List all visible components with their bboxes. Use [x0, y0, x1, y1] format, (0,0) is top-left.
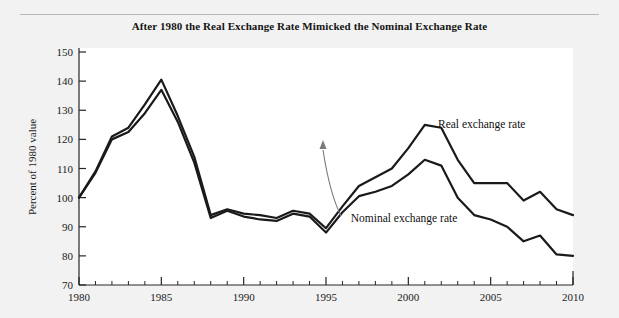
- y-tick-label: 150: [57, 46, 74, 58]
- y-tick-label: 90: [62, 221, 74, 233]
- y-tick-label: 110: [57, 163, 74, 175]
- x-tick-label: 2000: [397, 291, 420, 303]
- y-tick-label: 70: [62, 279, 74, 291]
- x-tick-label: 2005: [480, 291, 503, 303]
- line-chart: 708090100110120130140150 198019851990199…: [0, 0, 619, 318]
- y-tick-label: 130: [57, 104, 74, 116]
- y-tick-label: 140: [57, 75, 74, 87]
- x-tick-label: 1995: [315, 291, 338, 303]
- real-exchange-rate-label: Real exchange rate: [438, 118, 525, 131]
- x-tick-label: 1980: [68, 291, 91, 303]
- y-tick-label: 120: [57, 133, 74, 145]
- y-tick-label: 80: [62, 250, 74, 262]
- nominal-exchange-rate-label: Nominal exchange rate: [351, 212, 458, 225]
- x-tick-label: 1990: [233, 291, 256, 303]
- x-tick-label: 1985: [150, 291, 173, 303]
- chart-figure: After 1980 the Real Exchange Rate Mimick…: [0, 0, 619, 318]
- x-tick-label: 2010: [562, 291, 585, 303]
- y-axis-title: Percent of 1980 value: [26, 119, 38, 215]
- y-tick-label: 100: [57, 192, 74, 204]
